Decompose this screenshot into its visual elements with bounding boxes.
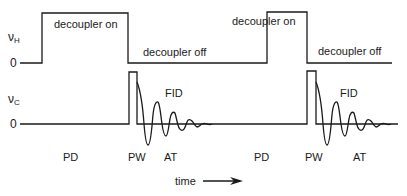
c-channel-pulse-2 xyxy=(210,71,398,124)
pd-label-2: PD xyxy=(254,152,269,163)
c-zero-label: 0 xyxy=(10,118,17,130)
decoupler-off-label-2: decoupler off xyxy=(318,46,381,57)
pw-label-2: PW xyxy=(305,152,323,163)
h-subscript: H xyxy=(14,36,20,45)
decoupler-on-label-1: decoupler on xyxy=(54,19,118,30)
at-label-2: AT xyxy=(353,152,366,163)
time-axis-label: time xyxy=(175,176,196,187)
fid-label-1: FID xyxy=(165,88,183,99)
at-label-1: AT xyxy=(164,152,177,163)
c-subscript: C xyxy=(14,98,20,107)
pd-label-1: PD xyxy=(63,152,78,163)
h-channel-label: νH xyxy=(8,31,20,45)
pw-label-1: PW xyxy=(128,152,146,163)
c-channel-label: νC xyxy=(8,93,20,107)
h-zero-label: 0 xyxy=(10,57,17,69)
decoupler-on-label-2: decoupler on xyxy=(232,16,296,27)
decoupler-off-label-1: decoupler off xyxy=(143,47,206,58)
fid-label-2: FID xyxy=(340,88,358,99)
